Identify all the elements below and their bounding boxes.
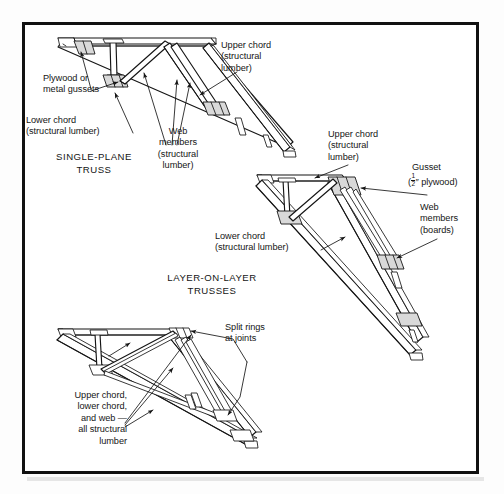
figure-page: .ln { stroke:#151515; stroke-width:1.15;… [0, 0, 504, 494]
leader-web-members-middle [397, 239, 437, 258]
label-upper-chord-top: Upper chord (structural lumber) [221, 40, 271, 74]
label-split-rings: Split rings at joints [225, 322, 265, 345]
figure-frame: .ln { stroke:#151515; stroke-width:1.15;… [22, 22, 479, 474]
caption-single-plane-truss: SINGLE-PLANE TRUSS [34, 151, 154, 176]
leader-gusset-plywood [361, 188, 427, 195]
label-all-structural-lumber: Upper chord, lower chord, and web — all … [27, 390, 127, 447]
leader-truss3-web [125, 410, 153, 427]
caption-layer-on-layer-trusses: LAYER-ON-LAYER TRUSSES [142, 272, 282, 297]
leader-truss3-kingpost [109, 343, 130, 356]
label-gusset-thickness: (12″ plywood) [408, 173, 458, 188]
gusset-suffix: ″ plywood) [415, 177, 457, 187]
label-upper-chord-middle: Upper chord (structural lumber) [328, 129, 378, 163]
label-web-members-middle: Web members (boards) [420, 202, 458, 236]
label-lower-chord-middle: Lower chord (structural lumber) [215, 231, 289, 254]
frame-drop-shadow [27, 477, 484, 481]
label-lower-chord-top: Lower chord (structural lumber) [26, 115, 100, 138]
truss-layer-on-layer-upper [256, 175, 429, 360]
label-plywood-metal-gussets: Plywood or metal gussets [43, 73, 99, 96]
label-gusset-title: Gusset [412, 162, 441, 173]
leader-lower-chord-top [115, 93, 133, 133]
